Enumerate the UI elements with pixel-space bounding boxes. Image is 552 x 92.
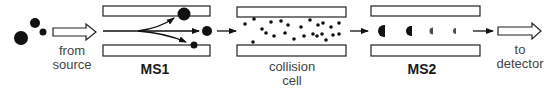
to-detector-label-line2: detector — [492, 57, 548, 71]
ms1-top-plate — [103, 6, 210, 16]
to-detector-label-line1: to — [492, 43, 548, 57]
to-detector-arrow-icon — [498, 23, 541, 39]
gas-particle — [279, 19, 283, 23]
gas-particle — [308, 18, 312, 22]
gas-particle — [311, 32, 315, 36]
ion-dot — [40, 29, 47, 36]
gas-particle — [286, 23, 290, 27]
selected-ion-dot — [191, 42, 198, 49]
gas-particle — [283, 31, 287, 35]
gas-particle — [299, 25, 303, 29]
gas-particle — [320, 32, 324, 36]
gas-particle — [272, 34, 276, 38]
gas-particle — [329, 25, 333, 29]
fragment-ion — [406, 26, 412, 36]
from-source-label: from source — [52, 44, 92, 72]
fragment-ion — [378, 25, 385, 37]
gas-particle — [292, 37, 296, 41]
collision-cell-label-line2: cell — [262, 74, 322, 88]
gas-particle — [260, 27, 264, 31]
selected-ion-dot — [202, 26, 212, 36]
gas-particle — [302, 34, 306, 38]
gas-particle — [321, 21, 325, 25]
collision-cell-label-line1: collision — [262, 60, 322, 74]
to-detector-label: to detector — [492, 43, 548, 71]
from-source-arrow-icon — [53, 24, 96, 40]
source-ions — [14, 18, 47, 45]
gas-particle — [324, 38, 328, 42]
collision-gas-particles — [243, 17, 341, 44]
ion-dot — [30, 18, 40, 28]
ms1-label: MS1 — [130, 62, 180, 76]
gas-particle — [243, 22, 247, 26]
collision-cell-label: collision cell — [262, 60, 322, 88]
ion-dot — [14, 31, 28, 45]
ms2-quadrupole — [371, 6, 480, 56]
gas-particle — [337, 21, 341, 25]
fragment-ion — [430, 28, 433, 35]
fragment-ion — [453, 28, 456, 34]
gas-particle — [269, 20, 273, 24]
gas-particle — [252, 17, 256, 21]
ms2-bottom-plate — [371, 45, 480, 56]
ms2-fragment-ions — [378, 25, 456, 37]
from-source-label-line1: from — [52, 44, 92, 58]
ms1-ion-trajectories — [103, 18, 199, 42]
ms2-label: MS2 — [397, 62, 447, 76]
gas-particle — [316, 23, 320, 27]
gas-particle — [331, 33, 335, 37]
gas-particle — [337, 32, 341, 36]
tandem-ms-diagram: from source MS1 collision cell MS2 to de… — [0, 0, 552, 92]
gas-particle — [315, 34, 319, 38]
collision-cell-top-plate — [237, 7, 346, 17]
selected-ion-dot — [178, 8, 191, 21]
ms2-top-plate — [371, 6, 480, 16]
gas-particle — [264, 31, 268, 35]
gas-particle — [251, 40, 255, 44]
collision-cell — [237, 7, 346, 56]
from-source-label-line2: source — [52, 58, 92, 72]
collision-cell-bottom-plate — [237, 45, 346, 56]
